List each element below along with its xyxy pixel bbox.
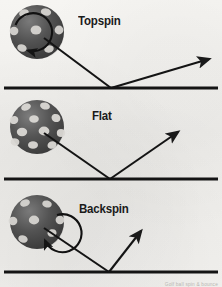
- panel-label-backspin: Backspin: [79, 202, 129, 216]
- figure-caption: Golf ball spin & bounce: [165, 281, 218, 287]
- incoming-trajectory: [44, 133, 110, 179]
- panel-label-topspin: Topspin: [78, 14, 121, 28]
- panel-flat: Flat: [0, 95, 222, 183]
- panel-backspin: Backspin: [0, 188, 222, 278]
- outgoing-trajectory: [111, 59, 209, 88]
- ball-backspin: [9, 195, 82, 252]
- incoming-trajectory: [44, 38, 111, 88]
- outgoing-trajectory: [109, 231, 141, 272]
- panel-label-flat: Flat: [92, 109, 112, 123]
- spin-bounce-diagram: Topspin: [0, 0, 222, 287]
- panel-topspin: Topspin: [0, 0, 222, 92]
- ball-flat: [8, 100, 65, 154]
- ball-topspin: [10, 5, 64, 59]
- outgoing-trajectory: [110, 132, 178, 179]
